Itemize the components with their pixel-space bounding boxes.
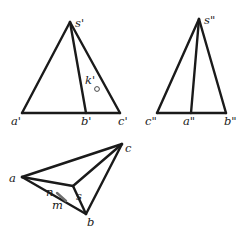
top-view: acsbnm (9, 141, 132, 229)
edge-sa (22, 22, 70, 113)
label-b: b" (224, 114, 237, 128)
point-k-marker (95, 87, 100, 92)
projection-diagram: s'a'b'c'k' s"c"a"b" acsbnm (0, 0, 250, 230)
label-c: c' (118, 114, 128, 128)
label-b: b' (81, 114, 92, 128)
diagram-svg: s'a'b'c'k' s"c"a"b" acsbnm (0, 0, 250, 230)
edge-cs (73, 144, 122, 186)
label-k: k' (85, 73, 95, 87)
label-s: s (76, 189, 82, 203)
label-a: a (9, 171, 16, 185)
label-s: s' (75, 16, 84, 30)
label-a: a" (183, 114, 195, 128)
front-view: s'a'b'c'k' (11, 16, 128, 128)
label-m: m (52, 198, 63, 212)
label-c: c" (145, 114, 157, 128)
label-a: a' (11, 114, 21, 128)
label-c: c (125, 141, 132, 155)
edge-sb (199, 19, 226, 113)
label-n: n (46, 185, 53, 199)
label-s: s" (204, 13, 215, 27)
label-b: b (87, 215, 94, 229)
side-view: s"c"a"b" (145, 13, 237, 128)
